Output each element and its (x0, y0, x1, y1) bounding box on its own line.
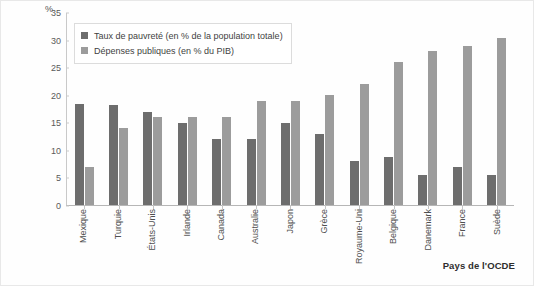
bar (188, 117, 197, 205)
bar (85, 167, 94, 205)
x-axis-category-labels: MexiqueTurquieÉtats-UnisIrlandeCanadaAus… (66, 209, 514, 261)
bar (394, 62, 403, 205)
x-axis-category-label: France (458, 209, 467, 237)
x-axis-category: Japon (276, 209, 304, 261)
bar (418, 175, 427, 205)
x-axis-category-label: Irlande (182, 209, 191, 237)
x-axis-category: Belgique (379, 209, 407, 261)
bar-group (418, 13, 437, 205)
bar (487, 175, 496, 205)
y-axis-tick-label: 20 (51, 91, 66, 100)
x-axis-category: France (448, 209, 476, 261)
bar-group (453, 13, 472, 205)
bar (384, 157, 393, 205)
y-axis-tick-mark (66, 206, 69, 207)
x-axis-category: Suède (483, 209, 511, 261)
bar (247, 139, 256, 205)
y-axis-tick-label: 35 (51, 9, 66, 18)
x-axis-category-label: Turquie (113, 209, 122, 239)
chart-figure: % 05101520253035 MexiqueTurquieÉtats-Uni… (0, 0, 534, 286)
bar-group (350, 13, 369, 205)
x-axis-category: Turquie (104, 209, 132, 261)
x-axis-category-label: Danemark (423, 209, 432, 251)
bar (497, 38, 506, 205)
legend-label-spending: Dépenses publiques (en % du PIB) (94, 46, 234, 56)
bar (281, 123, 290, 205)
bar (463, 46, 472, 205)
bar (428, 51, 437, 205)
bar (360, 84, 369, 205)
bar (315, 134, 324, 205)
bar (350, 161, 359, 205)
y-axis-tick-label: 10 (51, 146, 66, 155)
bar (109, 105, 118, 205)
x-axis-category-label: Japon (285, 209, 294, 234)
x-axis-category-label: Mexique (79, 209, 88, 243)
x-axis-category-label: Australie (251, 209, 260, 244)
y-axis-tick-label: 30 (51, 36, 66, 45)
bar (222, 117, 231, 205)
bar-group (384, 13, 403, 205)
bar (119, 128, 128, 205)
x-axis-category: Danemark (414, 209, 442, 261)
bar (257, 101, 266, 205)
bar (143, 112, 152, 205)
bar-group (315, 13, 334, 205)
legend-item-poverty: Taux de pauvreté (en % de la population … (81, 28, 283, 43)
legend-swatch-spending (81, 47, 88, 54)
chart-legend: Taux de pauvreté (en % de la population … (74, 23, 292, 64)
y-axis-tick-label: 15 (51, 119, 66, 128)
bar (453, 167, 462, 205)
y-axis-tick-label: 25 (51, 64, 66, 73)
x-axis-category: Irlande (173, 209, 201, 261)
bar (153, 117, 162, 205)
x-axis-category: Grèce (310, 209, 338, 261)
legend-swatch-poverty (81, 32, 88, 39)
legend-item-spending: Dépenses publiques (en % du PIB) (81, 43, 283, 58)
x-axis-category-label: Canada (217, 209, 226, 241)
x-axis-category: Royaume-Uni (345, 209, 373, 261)
x-axis-category: Mexique (69, 209, 97, 261)
x-axis-category-label: Grèce (320, 209, 329, 234)
x-axis-category-label: Suède (492, 209, 501, 235)
bar (291, 101, 300, 205)
x-axis-category-label: Belgique (389, 209, 398, 244)
bar-group (487, 13, 506, 205)
y-axis-tick-label: 5 (56, 174, 66, 183)
x-axis-category: Canada (207, 209, 235, 261)
x-axis-category-label: Royaume-Uni (354, 209, 363, 264)
bar (325, 95, 334, 205)
legend-label-poverty: Taux de pauvreté (en % de la population … (94, 31, 283, 41)
bar (212, 139, 221, 205)
bar (75, 104, 84, 205)
x-axis-category-label: États-Unis (148, 209, 157, 251)
x-axis-category: Australie (241, 209, 269, 261)
bar (178, 123, 187, 205)
x-axis-category: États-Unis (138, 209, 166, 261)
y-axis-tick-label: 0 (56, 202, 66, 211)
x-axis-title: Pays de l'OCDE (443, 260, 515, 271)
